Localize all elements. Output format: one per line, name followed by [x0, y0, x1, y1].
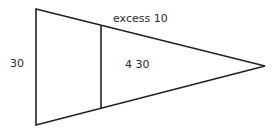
excess-label: excess 10: [113, 13, 168, 24]
outer-triangle: [36, 9, 265, 125]
triangle-diagram: excess 10 4 30 30: [0, 0, 274, 131]
inner-region-label: 4 30: [125, 59, 150, 70]
left-side-label: 30: [10, 58, 24, 69]
